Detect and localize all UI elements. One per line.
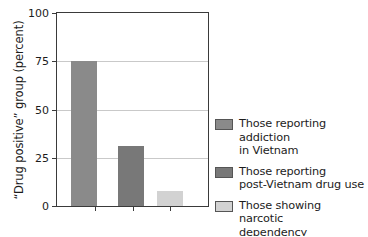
legend-label-3-line1: Those showing narcotic [239, 199, 321, 226]
legend-label-1: Those reporting addiction in Vietnam [239, 117, 368, 158]
legend-swatch-icon-1 [215, 119, 233, 130]
legend-label-3: Those showing narcotic dependency [239, 199, 368, 237]
x-tick-3 [170, 206, 171, 211]
y-tick-25 [52, 158, 57, 159]
chart-legend: Those reporting addiction in Vietnam Tho… [215, 117, 368, 236]
legend-item-post-vietnam-drug-use: Those reporting post-Vietnam drug use [215, 165, 368, 192]
y-tick-100 [52, 13, 57, 14]
legend-swatch-icon-2 [215, 167, 233, 178]
x-tick-2 [133, 206, 134, 211]
x-tick-1 [95, 206, 96, 211]
y-tick-50 [52, 110, 57, 111]
y-tick-0 [52, 206, 57, 207]
plot-area: 100 75 50 25 0 [56, 12, 209, 207]
legend-label-1-line1: Those reporting addiction [239, 117, 326, 144]
y-tick-75 [52, 61, 57, 62]
legend-label-2-line1: Those reporting [239, 165, 326, 178]
bar-addiction-in-vietnam [71, 61, 97, 206]
legend-swatch-icon-3 [215, 201, 233, 212]
y-tick-label-50: 50 [35, 103, 49, 116]
legend-label-1-line2: in Vietnam [239, 144, 298, 157]
y-tick-label-0: 0 [42, 200, 49, 213]
y-axis-title: “Drug positive” group (percent) [12, 10, 30, 210]
bar-narcotic-dependency [157, 191, 183, 206]
y-tick-label-25: 25 [35, 151, 49, 164]
legend-label-2-line2: post-Vietnam drug use [239, 178, 364, 191]
legend-label-3-line2: dependency [239, 226, 307, 237]
legend-label-2: Those reporting post-Vietnam drug use [239, 165, 364, 192]
y-tick-label-75: 75 [35, 55, 49, 68]
y-tick-label-100: 100 [28, 7, 49, 20]
bar-post-vietnam-drug-use [118, 146, 144, 206]
legend-item-addiction-in-vietnam: Those reporting addiction in Vietnam [215, 117, 368, 158]
bar-chart-figure: “Drug positive” group (percent) 100 75 5… [0, 0, 368, 236]
legend-item-narcotic-dependency: Those showing narcotic dependency [215, 199, 368, 237]
